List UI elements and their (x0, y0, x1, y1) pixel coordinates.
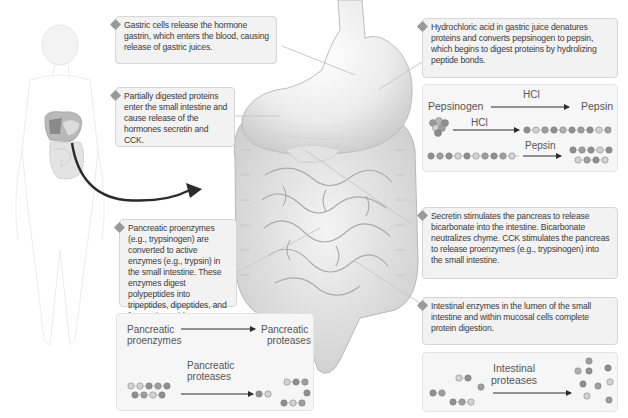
step-5-badge-icon (114, 222, 125, 233)
pepsin-beads-icon (423, 85, 619, 173)
intestinal-diagram: Intestinal proteases (422, 352, 618, 412)
step-6-badge-icon (417, 300, 428, 311)
step-4-text: Secretin stimulates the pancreas to rele… (431, 211, 609, 265)
step-4-badge-icon (417, 210, 428, 221)
step-1-badge-icon (110, 19, 121, 30)
step-6-text: Intestinal enzymes in the lumen of the s… (431, 301, 591, 333)
pepsin-diagram: Pepsinogen HCl Pepsin HCl Pepsin (422, 84, 618, 172)
mini-organs-icon (45, 112, 84, 180)
step-3-badge-icon (110, 90, 121, 101)
step-5-callout: Pancreatic proenzymes (e.g., trypsinogen… (119, 219, 237, 307)
pancreatic-diagram: Pancreatic proenzymes Pancreatic proteas… (116, 313, 314, 411)
step-1-callout: Gastric cells release the hormone gastri… (115, 16, 277, 64)
step-4-callout: Secretin stimulates the pancreas to rele… (422, 207, 618, 279)
step-1-text: Gastric cells release the hormone gastri… (124, 20, 269, 52)
step-3-callout: Partially digested proteins enter the sm… (115, 87, 235, 147)
step-6-callout: Intestinal enzymes in the lumen of the s… (422, 297, 618, 345)
step-2-callout: Hydrochloric acid in gastric juice denat… (422, 18, 618, 78)
step-2-badge-icon (417, 21, 428, 32)
zoom-arrow-icon (72, 143, 190, 201)
step-3-text: Partially digested proteins enter the sm… (124, 91, 227, 145)
step-5-text: Pancreatic proenzymes (e.g., trypsinogen… (128, 223, 227, 321)
step-2-text: Hydrochloric acid in gastric juice denat… (431, 22, 597, 65)
pancreatic-beads-icon (117, 314, 315, 412)
intestinal-beads-icon (423, 353, 619, 413)
